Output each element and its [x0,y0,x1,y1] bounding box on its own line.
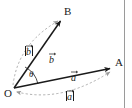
abs-bar-right-icon [73,91,74,101]
magnitude-b-glyph: b [24,46,33,57]
vector-b-letter: b [49,54,54,65]
vector-b-glyph: b [49,55,54,65]
vector-a-letter: a [71,72,76,83]
abs-bar-right-icon [32,46,33,56]
magnitude-a-glyph: a [65,91,74,102]
point-label-b: B [64,6,71,17]
point-label-a: A [115,57,123,68]
vector-diagram-figure: B A O θ b b a [0,0,132,108]
magnitude-b-inner: b [26,47,31,57]
magnitude-a-letter: a [67,91,72,102]
magnitude-a-inner: a [67,92,72,102]
point-label-o: O [4,88,12,99]
magnitude-b-letter: b [26,46,31,57]
vector-b-label: b [49,50,54,66]
magnitude-b-label: b [24,42,33,58]
right-border-rule [124,0,125,108]
magnitude-a-label: a [65,87,74,103]
angle-label-theta: θ [29,70,33,79]
vector-a-label: a [71,68,76,84]
vector-a-glyph: a [71,73,76,83]
